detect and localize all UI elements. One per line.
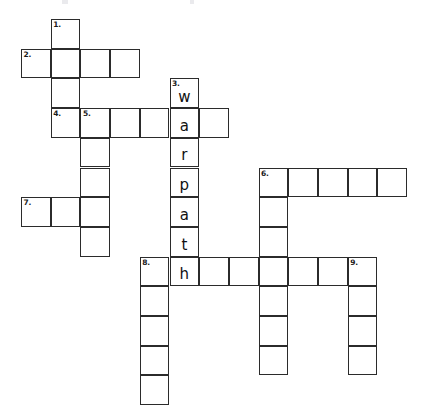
cell-letter: p [171,177,199,194]
crossword-cell[interactable] [140,346,170,376]
cell-letter: w [171,89,199,106]
crossword-cell[interactable] [80,197,110,227]
crossword-cell[interactable] [199,257,229,287]
crossword-cell[interactable] [348,168,378,198]
crossword-cell[interactable] [110,108,140,138]
crossword-cell[interactable] [140,375,170,405]
crossword-cell[interactable] [80,227,110,257]
crossword-cell[interactable] [140,316,170,346]
cell-clue-number: 5. [83,109,91,118]
crossword-cell[interactable] [348,316,378,346]
crossword-cell[interactable] [140,286,170,316]
crossword-cell[interactable] [80,168,110,198]
cell-letter: r [171,147,199,164]
crossword-cell[interactable] [80,49,110,79]
crossword-cell[interactable]: 1. [51,19,81,49]
crossword-cell[interactable] [259,227,289,257]
crossword-cell[interactable]: 5. [80,108,110,138]
crossword-cell[interactable] [80,138,110,168]
cell-clue-number: 6. [261,169,269,178]
crossword-cell[interactable]: 9. [348,257,378,287]
crossword-cell[interactable] [259,346,289,376]
cell-clue-number: 7. [24,198,32,207]
crossword-cell[interactable]: 3.w [170,78,200,108]
crossword-cell[interactable] [348,286,378,316]
crossword-cell[interactable] [259,286,289,316]
crossword-cell[interactable] [259,257,289,287]
cell-letter: a [171,118,199,135]
crossword-cell[interactable]: h [170,257,200,287]
crossword-cell[interactable] [51,49,81,79]
crossword-cell[interactable]: a [170,108,200,138]
cell-clue-number: 8. [142,258,150,267]
cell-clue-number: 1. [53,20,61,29]
crossword-cell[interactable]: 8. [140,257,170,287]
cell-clue-number: 3. [172,79,180,88]
crossword-cell[interactable]: 6. [259,168,289,198]
crossword-cell[interactable] [229,257,259,287]
crossword-cell[interactable] [318,168,348,198]
crossword-cell[interactable] [259,316,289,346]
crossword-cell[interactable]: a [170,197,200,227]
crossword-cell[interactable] [288,257,318,287]
crossword-cell[interactable] [140,108,170,138]
crossword-cell[interactable] [318,257,348,287]
crossword-grid[interactable]: 1.2.3.w4.5.arp6.7.at8.h9. [0,0,426,405]
crossword-puzzle: 1.2.3.w4.5.arp6.7.at8.h9. [0,0,426,405]
crossword-cell[interactable]: p [170,168,200,198]
crossword-cell[interactable]: t [170,227,200,257]
cell-clue-number: 9. [350,258,358,267]
crossword-cell[interactable] [377,168,407,198]
crossword-cell[interactable] [51,78,81,108]
cell-letter: h [171,266,199,283]
crossword-cell[interactable] [110,49,140,79]
crossword-cell[interactable]: 4. [51,108,81,138]
cell-clue-number: 2. [24,50,32,59]
crossword-cell[interactable]: r [170,138,200,168]
crossword-cell[interactable]: 7. [21,197,51,227]
cell-letter: a [171,207,199,224]
crossword-cell[interactable] [51,197,81,227]
crossword-cell[interactable] [288,168,318,198]
crossword-cell[interactable] [348,346,378,376]
crossword-cell[interactable]: 2. [21,49,51,79]
crossword-cell[interactable] [259,197,289,227]
cell-clue-number: 4. [53,109,61,118]
crossword-cell[interactable] [199,108,229,138]
cell-letter: t [171,237,199,254]
